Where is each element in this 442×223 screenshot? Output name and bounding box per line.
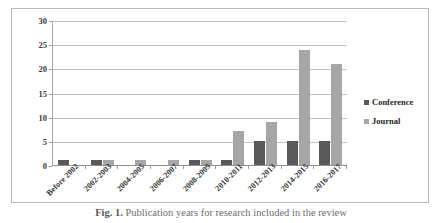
x-axis-label-cell: 2004-2005	[119, 167, 152, 207]
y-axis-tick-label: 30	[39, 16, 48, 26]
bar-group	[184, 21, 217, 165]
y-axis-tick-label: 5	[43, 137, 47, 147]
x-axis-label-cell: 2016-2017	[315, 167, 348, 207]
x-axis-label-cell: 2012-2013	[250, 167, 283, 207]
bar-conference	[221, 160, 232, 165]
figure-caption-text: Publication years for research included …	[126, 207, 347, 218]
bar-group	[151, 21, 184, 165]
x-axis-tick-label-text: Before 2002	[45, 162, 81, 198]
x-axis-tick-label-text: 2014-2015	[279, 162, 310, 193]
x-axis-label-cell: 2008-2009	[184, 167, 217, 207]
figure-caption-prefix: Fig. 1.	[95, 207, 123, 218]
x-axis-labels: Before 20022002-20032004-20052006-200720…	[53, 167, 348, 207]
x-axis-tick-label-text: 2016-2017	[312, 162, 343, 193]
y-axis-tick-label: 20	[39, 64, 48, 74]
bar-journal	[331, 64, 342, 165]
legend-swatch-icon-conference	[364, 100, 369, 105]
x-axis-tick-label-text: 2010-2011	[214, 162, 245, 193]
bar-group	[249, 21, 282, 165]
x-axis-tick-label-text: 2008-2009	[180, 162, 211, 193]
x-axis-tick-label-text: 2004-2005	[115, 162, 146, 193]
y-axis-tick-label: 25	[39, 40, 48, 50]
bar-group	[53, 21, 86, 165]
x-axis-label-cell: 2014-2015	[282, 167, 315, 207]
x-axis-tick-label-text: 2002-2003	[82, 162, 113, 193]
legend-item-journal: Journal	[364, 116, 434, 126]
chart-frame: 051015202530 Before 20022002-20032004-20…	[11, 8, 429, 203]
y-tick-mark	[49, 166, 52, 167]
x-axis-tick-label-text: 2006-2007	[148, 162, 179, 193]
bar-conference	[91, 160, 102, 165]
legend-label-journal: Journal	[372, 116, 400, 126]
y-axis-tick-label: 10	[39, 113, 48, 123]
x-axis-label-cell: 2010-2011	[217, 167, 250, 207]
bar-group	[216, 21, 249, 165]
y-axis-tick-label: 0	[43, 161, 47, 171]
chart-legend: Conference Journal	[364, 97, 434, 135]
bar-conference	[189, 160, 200, 165]
x-axis-label-cell: Before 2002	[53, 167, 86, 207]
bar-conference	[58, 160, 69, 165]
legend-item-conference: Conference	[364, 97, 434, 107]
bar-group	[118, 21, 151, 165]
bar-group	[314, 21, 347, 165]
bar-journal	[299, 50, 310, 165]
bar-group	[86, 21, 119, 165]
bar-group	[282, 21, 315, 165]
legend-swatch-icon-journal	[364, 119, 369, 124]
legend-label-conference: Conference	[372, 97, 413, 107]
figure-caption: Fig. 1. Publication years for research i…	[0, 207, 442, 218]
x-axis-label-cell: 2006-2007	[151, 167, 184, 207]
figure-root: 051015202530 Before 20022002-20032004-20…	[0, 0, 442, 223]
x-axis-label-cell: 2002-2003	[86, 167, 119, 207]
x-axis-tick-label-text: 2012-2013	[246, 162, 277, 193]
y-axis-tick-label: 15	[39, 89, 48, 99]
